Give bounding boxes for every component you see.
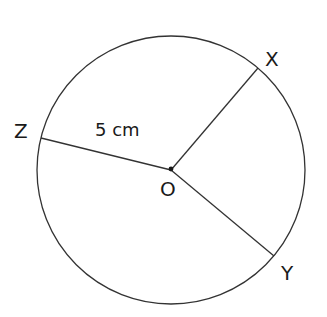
label-y: Y <box>280 261 294 285</box>
label-x: X <box>265 47 279 71</box>
label-z: Z <box>14 119 28 143</box>
label-o: O <box>160 177 176 201</box>
radius-oz <box>41 138 171 170</box>
radius-oy <box>171 170 274 256</box>
circle-diagram: X Y Z O 5 cm <box>0 0 327 317</box>
radius-ox <box>171 68 258 170</box>
radius-label: 5 cm <box>95 119 140 140</box>
center-point <box>169 167 174 172</box>
